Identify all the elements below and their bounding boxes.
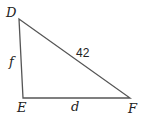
vertex-e-label: E — [17, 101, 27, 114]
vertex-f-label: F — [128, 102, 137, 115]
side-de-label: f — [9, 55, 14, 68]
side-df-label: 42 — [76, 47, 89, 59]
side-ef-label: d — [71, 100, 79, 113]
triangle-def — [19, 19, 130, 98]
vertex-d-label: D — [6, 6, 16, 19]
